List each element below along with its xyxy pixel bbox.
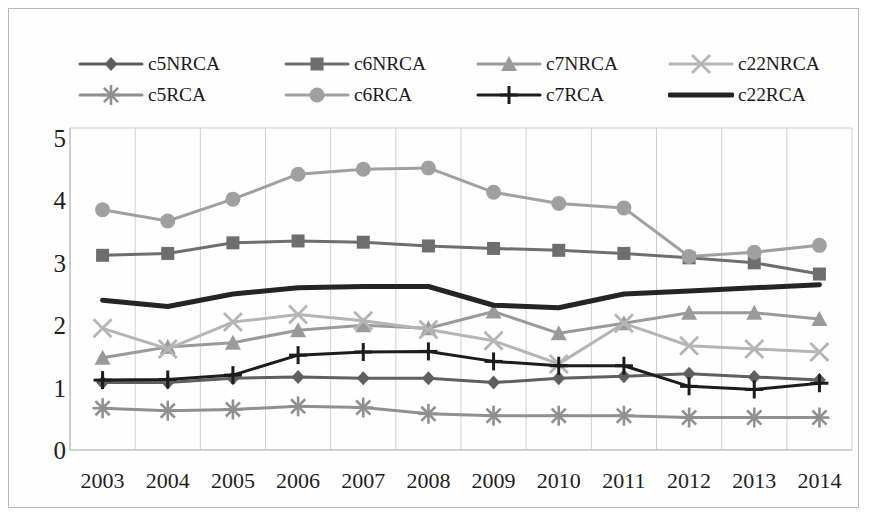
data-point-c6rca-2004 <box>160 213 175 228</box>
chart-figure: 012345 200320042005200620072008200920102… <box>0 0 871 520</box>
legend-swatch-circle-icon-marker <box>310 87 325 102</box>
legend-label-c6rca: c6RCA <box>350 84 412 106</box>
y-axis-tick-0: 0 <box>54 438 67 463</box>
y-axis-tick-5: 5 <box>54 126 67 151</box>
data-point-c6rca-2003 <box>95 202 110 217</box>
data-point-c6rca-2014 <box>812 238 827 253</box>
data-point-c6rca-2008 <box>421 160 436 175</box>
y-axis-labels: 012345 <box>30 0 66 520</box>
legend-row-2: c5RCA c6RCA c7RCA c22RCA <box>78 79 853 110</box>
x-axis-tick-2007: 2007 <box>341 470 385 492</box>
data-point-c22nrca-2003 <box>94 319 112 337</box>
y-axis-tick-3: 3 <box>54 250 67 275</box>
x-axis-tick-2006: 2006 <box>276 470 320 492</box>
legend-label-c5rca: c5RCA <box>144 84 206 106</box>
data-point-c6nrca-2005 <box>226 236 239 249</box>
legend-swatch-square-icon <box>284 51 350 77</box>
data-point-c5nrca-2008 <box>422 371 435 385</box>
data-point-c6nrca-2008 <box>422 239 435 252</box>
x-axis-tick-2003: 2003 <box>81 470 125 492</box>
legend-label-c5nrca: c5NRCA <box>144 53 220 75</box>
legend-swatch-triangle-icon <box>476 51 542 77</box>
legend-swatch-plus-icon-marker <box>500 86 518 104</box>
data-point-c6nrca-2006 <box>292 234 305 247</box>
data-point-c5nrca-2007 <box>357 371 370 385</box>
legend-swatch-square-icon-marker <box>311 57 324 70</box>
y-axis-tick-4: 4 <box>54 188 67 213</box>
data-point-c7rca-2005 <box>224 366 242 384</box>
data-point-c7rca-2009 <box>485 352 503 370</box>
data-point-c6rca-2011 <box>616 200 631 215</box>
data-point-c6rca-2007 <box>356 162 371 177</box>
data-point-c7rca-2011 <box>615 357 633 375</box>
data-point-c6nrca-2003 <box>96 249 109 262</box>
data-point-c5rca-2006 <box>288 396 308 416</box>
data-point-c5rca-2012 <box>679 408 699 428</box>
legend-item-c7rca[interactable]: c7RCA <box>476 79 668 110</box>
legend-swatch-x-icon <box>668 51 734 77</box>
data-point-c6rca-2005 <box>225 192 240 207</box>
data-point-c5rca-2004 <box>158 401 178 421</box>
data-point-c6nrca-2014 <box>813 268 826 281</box>
legend-label-c7nrca: c7NRCA <box>542 53 618 75</box>
legend-item-c5nrca[interactable]: c5NRCA <box>78 48 284 79</box>
data-point-c5nrca-2006 <box>292 370 305 384</box>
legend-swatch-asterisk-icon-marker <box>101 85 121 105</box>
x-axis-tick-2011: 2011 <box>602 470 645 492</box>
data-point-c7rca-2012 <box>680 377 698 395</box>
data-point-c6rca-2013 <box>747 245 762 260</box>
data-point-c5rca-2007 <box>353 398 373 418</box>
data-point-c6nrca-2010 <box>552 244 565 257</box>
data-point-c7rca-2013 <box>745 380 763 398</box>
y-axis-tick-2: 2 <box>54 313 67 338</box>
x-axis-tick-2012: 2012 <box>667 470 711 492</box>
x-axis-tick-2013: 2013 <box>732 470 776 492</box>
legend-swatch-asterisk-icon <box>78 82 144 108</box>
legend-item-c6rca[interactable]: c6RCA <box>284 79 476 110</box>
data-point-c6nrca-2011 <box>617 247 630 260</box>
legend-item-c7nrca[interactable]: c7NRCA <box>476 48 668 79</box>
data-point-c6rca-2006 <box>291 167 306 182</box>
data-point-c5rca-2009 <box>484 406 504 426</box>
legend-label-c22nrca: c22NRCA <box>734 53 820 75</box>
data-point-c5rca-2011 <box>614 406 634 426</box>
data-point-c6nrca-2007 <box>357 236 370 249</box>
x-axis-tick-2008: 2008 <box>406 470 450 492</box>
legend-label-c22rca: c22RCA <box>734 84 806 106</box>
legend-swatch-line-icon <box>668 82 734 108</box>
x-axis-tick-2014: 2014 <box>797 470 841 492</box>
chart-legend: c5NRCA c6NRCA c7NRCA c22NRCA c5RCA <box>78 48 853 110</box>
data-point-c7rca-2003 <box>94 371 112 389</box>
legend-item-c5rca[interactable]: c5RCA <box>78 79 284 110</box>
legend-label-c7rca: c7RCA <box>542 84 604 106</box>
data-point-c6rca-2012 <box>682 249 697 264</box>
data-point-c6rca-2010 <box>551 196 566 211</box>
data-point-c7rca-2014 <box>810 374 828 392</box>
legend-label-c6nrca: c6NRCA <box>350 53 426 75</box>
legend-swatch-diamond-icon <box>78 51 144 77</box>
data-point-c5rca-2005 <box>223 399 243 419</box>
legend-item-c22rca[interactable]: c22RCA <box>668 79 853 110</box>
data-point-c5rca-2003 <box>93 398 113 418</box>
data-point-c7rca-2007 <box>354 343 372 361</box>
data-point-c5rca-2013 <box>744 408 764 428</box>
data-point-c6nrca-2004 <box>161 247 174 260</box>
x-axis-tick-2004: 2004 <box>146 470 190 492</box>
data-point-c6nrca-2009 <box>487 242 500 255</box>
data-point-c7rca-2006 <box>289 346 307 364</box>
y-axis-tick-1: 1 <box>54 375 67 400</box>
x-axis-tick-2005: 2005 <box>211 470 255 492</box>
legend-swatch-circle-icon <box>284 82 350 108</box>
data-point-c6rca-2009 <box>486 185 501 200</box>
x-axis-labels: 2003200420052006200720082009201020112012… <box>0 462 871 496</box>
legend-item-c6nrca[interactable]: c6NRCA <box>284 48 476 79</box>
legend-row-1: c5NRCA c6NRCA c7NRCA c22NRCA <box>78 48 853 79</box>
legend-item-c22nrca[interactable]: c22NRCA <box>668 48 853 79</box>
data-point-c5rca-2010 <box>549 406 569 426</box>
legend-swatch-diamond-icon-marker <box>105 57 118 71</box>
data-point-c5rca-2008 <box>418 404 438 424</box>
legend-swatch-plus-icon <box>476 82 542 108</box>
data-point-c5rca-2014 <box>809 408 829 428</box>
data-point-c5nrca-2009 <box>487 376 500 390</box>
x-axis-tick-2010: 2010 <box>537 470 581 492</box>
